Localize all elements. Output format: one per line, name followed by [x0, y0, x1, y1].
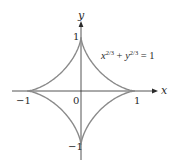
diagram-canvas [0, 0, 174, 166]
y-axis-label: y [78, 10, 84, 21]
origin-label: 0 [73, 96, 79, 106]
x-tick-1: 1 [134, 96, 140, 106]
eq-y-exponent: 2/3 [130, 49, 138, 56]
x-tick-neg-1: −1 [16, 96, 31, 106]
eq-plus: + [114, 50, 125, 61]
eq-equals: = 1 [138, 50, 154, 61]
y-tick-neg-1: −1 [68, 142, 83, 152]
x-axis-arrow-icon [152, 89, 158, 94]
y-tick-1: 1 [73, 32, 79, 42]
x-axis-label: x [161, 85, 167, 96]
equation-label: x2/3 + y2/3 = 1 [101, 49, 155, 61]
astroid-diagram: y x 1 −1 −1 0 1 x2/3 + y2/3 = 1 [0, 0, 174, 166]
eq-x-exponent: 2/3 [106, 49, 114, 56]
